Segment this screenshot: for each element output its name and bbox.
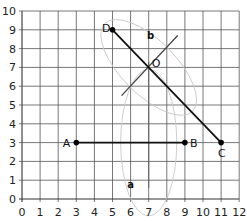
y-tick-label: 2 (9, 155, 16, 168)
x-tick-label: 1 (37, 206, 44, 219)
y-tick-label: 0 (9, 193, 16, 206)
axis-tick-labels: 0123456789101112012345678910 (2, 5, 246, 219)
y-tick-label: 9 (9, 24, 16, 37)
x-tick-label: 10 (196, 206, 210, 219)
grid (19, 11, 239, 202)
x-tick-label: 12 (232, 206, 246, 219)
point-D (110, 27, 116, 33)
x-tick-label: 3 (73, 206, 80, 219)
point-B (182, 140, 188, 146)
x-tick-label: 11 (214, 206, 228, 219)
label-A: A (63, 137, 71, 150)
label-C: C (218, 147, 226, 160)
x-tick-label: 5 (109, 206, 116, 219)
y-tick-label: 6 (9, 80, 16, 93)
label-O: O (152, 57, 161, 70)
label-D: D (102, 22, 110, 35)
x-tick-label: 7 (145, 206, 152, 219)
x-tick-label: 4 (91, 206, 98, 219)
y-tick-label: 3 (9, 137, 16, 150)
x-tick-label: 8 (163, 206, 170, 219)
y-tick-label: 4 (9, 118, 16, 131)
y-tick-label: 10 (2, 5, 16, 18)
label-B: B (190, 137, 198, 150)
coordinate-diagram: 0123456789101112012345678910 ABCDOab (0, 0, 247, 221)
y-tick-label: 8 (9, 43, 16, 56)
point-A (74, 140, 80, 146)
points: ABCDOab (63, 22, 226, 190)
point-C (218, 140, 224, 146)
y-tick-label: 1 (9, 174, 16, 187)
y-tick-label: 5 (9, 99, 16, 112)
y-tick-label: 7 (9, 61, 16, 74)
label-a: a (127, 179, 134, 190)
x-tick-label: 2 (55, 206, 62, 219)
x-tick-label: 0 (19, 206, 26, 219)
x-tick-label: 9 (181, 206, 188, 219)
x-tick-label: 6 (127, 206, 134, 219)
label-b: b (147, 30, 154, 41)
